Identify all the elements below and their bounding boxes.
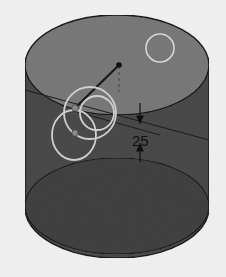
center-point (116, 62, 122, 68)
point-b (72, 130, 78, 136)
cylinder-diagram: 25 (0, 0, 226, 277)
point-a (72, 105, 78, 111)
diagram-canvas: 25 (0, 0, 226, 277)
bottom-face (25, 158, 209, 254)
dimension-label: 25 (132, 132, 149, 149)
